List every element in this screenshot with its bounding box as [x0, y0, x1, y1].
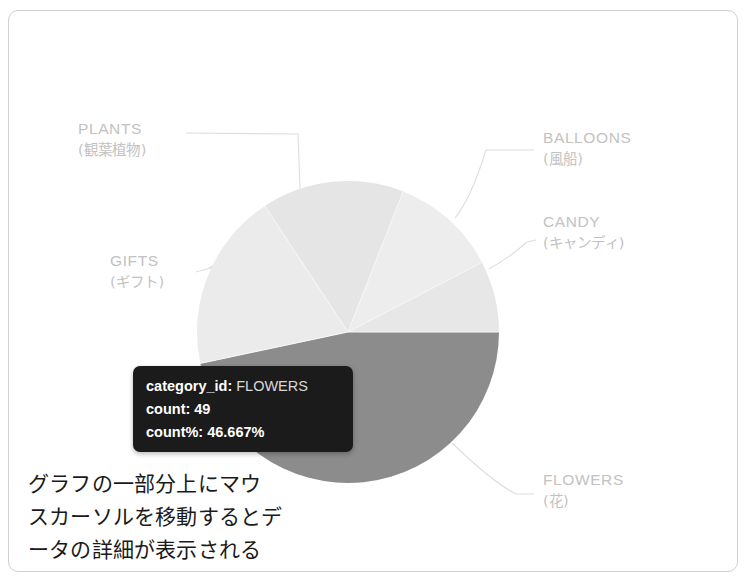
pie-label-flowers-ja: (花)	[543, 491, 624, 512]
pie-label-balloons: BALLOONS (風船)	[543, 127, 631, 170]
tooltip-percent-key: count%:	[146, 424, 203, 440]
chart-tooltip: category_id:FLOWERS count:49 count%:46.6…	[133, 366, 353, 452]
caption-line-3: ータの詳細が表示される	[28, 534, 298, 567]
pie-label-candy-ja: (キャンディ)	[543, 233, 625, 254]
leader-line-balloons	[455, 150, 534, 218]
tooltip-row-count: count:49	[146, 398, 353, 421]
tooltip-category-value: FLOWERS	[236, 378, 308, 394]
pie-label-flowers-en: FLOWERS	[543, 471, 624, 488]
pie-label-flowers: FLOWERS (花)	[543, 469, 624, 512]
caption-text: グラフの一部分上にマウ スカーソルを移動するとデ ータの詳細が表示される	[28, 468, 298, 567]
tooltip-count-value: 49	[194, 401, 210, 417]
pie-label-balloons-en: BALLOONS	[543, 129, 631, 146]
tooltip-percent-value: 46.667%	[207, 424, 264, 440]
pie-label-gifts-en: GIFTS	[110, 252, 159, 269]
pie-label-gifts: GIFTS (ギフト)	[110, 250, 164, 293]
leader-line-plants	[186, 133, 300, 189]
pie-label-plants-en: PLANTS	[78, 120, 142, 137]
caption-line-2: スカーソルを移動するとデ	[28, 501, 298, 534]
pie-label-candy: CANDY (キャンディ)	[543, 211, 625, 254]
pie-label-balloons-ja: (風船)	[543, 149, 631, 170]
tooltip-category-key: category_id:	[146, 378, 232, 394]
tooltip-count-key: count:	[146, 401, 190, 417]
pie-label-plants: PLANTS (観葉植物)	[78, 118, 147, 161]
pie-chart[interactable]: PLANTS (観葉植物) GIFTS (ギフト) BALLOONS (風船) …	[0, 0, 745, 584]
tooltip-row-category: category_id:FLOWERS	[146, 375, 353, 398]
pie-label-plants-ja: (観葉植物)	[78, 140, 147, 161]
leader-line-flowers	[452, 443, 534, 494]
pie-label-candy-en: CANDY	[543, 213, 600, 230]
caption-line-1: グラフの一部分上にマウ	[28, 468, 298, 501]
tooltip-row-percent: count%:46.667%	[146, 421, 353, 444]
pie-label-gifts-ja: (ギフト)	[110, 272, 164, 293]
leader-line-candy	[489, 240, 536, 269]
